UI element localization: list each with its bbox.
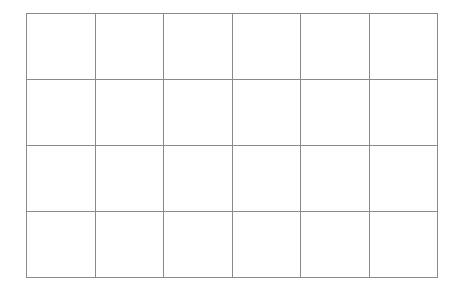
grid-cell bbox=[95, 211, 164, 277]
grid-cell bbox=[232, 13, 301, 79]
grid-cell bbox=[95, 13, 164, 79]
grid-cell bbox=[163, 79, 232, 145]
grid-cell bbox=[26, 13, 95, 79]
grid-cell bbox=[95, 79, 164, 145]
grid-cell bbox=[369, 79, 438, 145]
empty-grid bbox=[26, 13, 438, 278]
grid-cell bbox=[232, 145, 301, 211]
grid-cell bbox=[300, 13, 369, 79]
grid-cell bbox=[163, 211, 232, 277]
grid-cell bbox=[369, 13, 438, 79]
grid-cell bbox=[300, 145, 369, 211]
grid-cell bbox=[300, 211, 369, 277]
grid-cell bbox=[163, 13, 232, 79]
grid-cell bbox=[232, 211, 301, 277]
grid-cell bbox=[232, 79, 301, 145]
grid-cell bbox=[26, 211, 95, 277]
grid-cell bbox=[26, 145, 95, 211]
canvas bbox=[0, 0, 467, 288]
grid-cell bbox=[95, 145, 164, 211]
grid-cell bbox=[369, 211, 438, 277]
grid-cell bbox=[163, 145, 232, 211]
grid-cell bbox=[300, 79, 369, 145]
grid-cell bbox=[26, 79, 95, 145]
grid-cell bbox=[369, 145, 438, 211]
